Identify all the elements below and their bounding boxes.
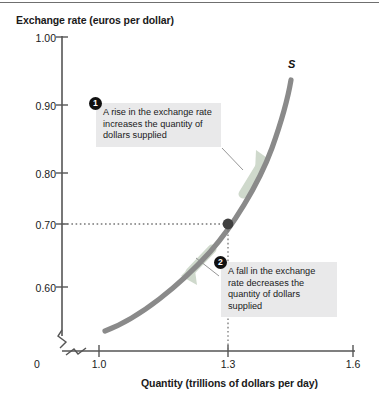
callout-annotation-2: 2 A fall in the exchange rate decreases … (221, 262, 337, 317)
figure-container: Exchange rate (euros per dollar) Quantit… (0, 0, 379, 402)
callout-1-leader-line (222, 148, 243, 170)
callout-annotation-1: 1 A rise in the exchange rate increases … (96, 103, 221, 147)
callout-1-badge: 1 (89, 97, 102, 110)
callout-1-text: A rise in the exchange rate increases th… (103, 107, 212, 140)
plot-area (0, 0, 379, 402)
supply-curve-label: S (288, 58, 295, 70)
callout-2-text: A fall in the exchange rate decreases th… (228, 266, 315, 311)
callout-2-badge: 2 (214, 256, 227, 269)
equilibrium-point-marker (223, 219, 234, 230)
